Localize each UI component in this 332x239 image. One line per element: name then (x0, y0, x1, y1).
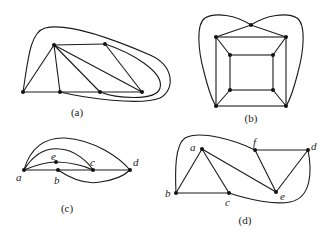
graph-figure: (a) (b) a e b c (0, 0, 332, 239)
label-b: b (54, 174, 60, 186)
panel-a: (a) (21, 27, 170, 119)
edge (273, 37, 286, 55)
vertex (21, 90, 25, 94)
caption-c: (c) (61, 202, 74, 215)
edge (54, 45, 60, 92)
edge (23, 45, 54, 92)
edge (23, 27, 170, 101)
vertex (52, 43, 56, 47)
caption-a: (a) (71, 106, 84, 119)
vertex (58, 90, 62, 94)
vertex (228, 88, 232, 92)
vertex-c (227, 191, 231, 195)
vertex-c (91, 168, 95, 172)
vertex (98, 90, 102, 94)
edge (199, 15, 251, 106)
label-f: f (253, 136, 258, 148)
vertex (103, 42, 107, 46)
vertex (214, 35, 218, 39)
edge (100, 44, 160, 98)
vertex-b (174, 191, 178, 195)
label-a: a (16, 171, 22, 183)
vertex-a (200, 147, 204, 151)
vertex (284, 35, 288, 39)
vertex (284, 104, 288, 108)
vertex (228, 53, 232, 57)
inner-square (230, 55, 273, 90)
edge (24, 149, 93, 170)
edge (54, 45, 100, 92)
label-d: d (133, 156, 139, 168)
vertex-a (22, 168, 26, 172)
label-e: e (280, 190, 285, 202)
vertex (271, 53, 275, 57)
vertex-f (253, 148, 257, 152)
edge (54, 45, 142, 92)
label-d: d (311, 140, 317, 152)
vertex-b (56, 168, 60, 172)
edge (216, 90, 230, 106)
vertex-d (306, 148, 310, 152)
vertex-d (128, 168, 132, 172)
edge (251, 15, 303, 106)
edge (54, 44, 105, 45)
caption-d: (d) (239, 214, 252, 227)
edge (24, 138, 130, 170)
edge (273, 90, 286, 106)
edge (216, 37, 230, 55)
vertex (249, 23, 253, 27)
label-b: b (165, 187, 171, 199)
vertex-e (274, 190, 278, 194)
edge (176, 135, 255, 193)
edge (229, 150, 310, 203)
edge (176, 149, 229, 193)
edge (276, 150, 308, 192)
vertex (140, 90, 144, 94)
label-c: c (90, 156, 95, 168)
panel-d: a f d b c e (d) (165, 135, 317, 227)
vertex (214, 104, 218, 108)
outer-square (216, 37, 286, 106)
edge (58, 170, 130, 183)
label-a: a (190, 141, 196, 153)
label-e: e (51, 150, 56, 162)
panel-b: (b) (199, 15, 303, 125)
caption-b: (b) (245, 112, 258, 125)
label-c: c (225, 196, 230, 208)
panel-c: a e b c d (c) (16, 138, 139, 215)
vertex (271, 88, 275, 92)
